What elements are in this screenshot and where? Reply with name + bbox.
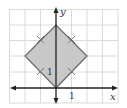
- y-axis-label: y: [59, 6, 66, 17]
- coordinate-plane: y x 1 1: [0, 0, 127, 108]
- x-axis-label: x: [110, 91, 116, 102]
- y-tick-label: 1: [47, 67, 53, 77]
- x-axis: [10, 86, 118, 91]
- x-tick-label: 1: [69, 91, 75, 101]
